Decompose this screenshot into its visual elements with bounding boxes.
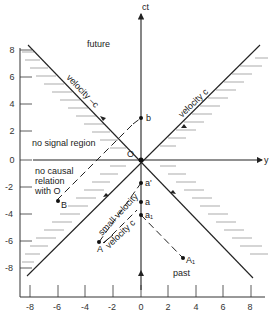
svg-text:0: 0 <box>9 155 14 165</box>
ct-axis-label: ct <box>142 2 150 12</box>
svg-text:-2: -2 <box>5 182 13 192</box>
light-cone <box>27 45 260 278</box>
velocity-c-label: velocity c <box>176 86 210 119</box>
point-b-label: b <box>146 113 151 123</box>
y-axis-label: y <box>264 155 269 165</box>
svg-text:-6: -6 <box>53 302 61 312</box>
svg-text:4: 4 <box>193 302 198 312</box>
origin-label: O <box>127 149 134 159</box>
y-ticks <box>20 50 32 268</box>
velocity-neg-c-label: velocity –c <box>65 72 102 110</box>
axes <box>33 14 262 290</box>
y-tick-labels: 8 6 4 2 0 -2 -4 -6 -8 <box>5 45 15 273</box>
svg-text:8: 8 <box>9 45 14 55</box>
point-A1-label: A₁ <box>186 255 195 265</box>
svg-text:8: 8 <box>247 302 252 312</box>
no-causal-label-2: relation <box>35 176 65 186</box>
no-causal-label-1: no causal <box>35 166 74 176</box>
svg-text:6: 6 <box>9 72 14 82</box>
no-signal-label: no signal region <box>32 138 96 148</box>
x-tick-labels: -8 -6 -4 -2 0 2 4 6 8 <box>26 302 253 312</box>
svg-text:-4: -4 <box>81 302 89 312</box>
no-causal-label-3: with O <box>34 186 61 196</box>
svg-text:2: 2 <box>9 126 14 136</box>
svg-text:-8: -8 <box>26 302 34 312</box>
point-B-label: B <box>61 200 67 210</box>
past-label: past <box>173 268 191 278</box>
svg-text:2: 2 <box>165 302 170 312</box>
light-cone-arrows <box>100 116 187 197</box>
svg-text:-8: -8 <box>5 263 13 273</box>
svg-text:-4: -4 <box>5 209 13 219</box>
svg-text:-6: -6 <box>5 236 13 246</box>
svg-text:6: 6 <box>220 302 225 312</box>
ct-axis-lower-arrow <box>138 270 144 276</box>
hatch-right <box>160 58 268 254</box>
svg-text:0: 0 <box>138 302 143 312</box>
spacetime-diagram: 8 6 4 2 0 -2 -4 -6 -8 -8 -6 -4 -2 0 2 4 … <box>0 0 273 329</box>
point-a1-label: a₁ <box>145 210 153 220</box>
point-A-label: A <box>97 244 103 254</box>
point-a-prime-label: a' <box>145 178 152 188</box>
svg-text:-2: -2 <box>108 302 116 312</box>
svg-text:4: 4 <box>9 99 14 109</box>
point-a-label: a <box>145 197 150 207</box>
future-label: future <box>87 39 110 49</box>
